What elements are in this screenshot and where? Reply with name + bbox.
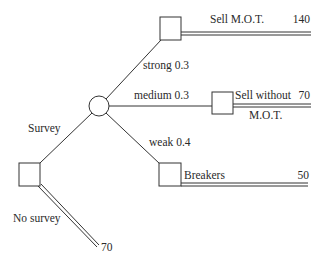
root-decision-node (19, 163, 40, 186)
decision-tree-diagram: Survey No survey 70 strong 0.3 medium 0.… (0, 0, 327, 269)
sell-without-mot-label-line1: Sell without (235, 89, 292, 101)
no-survey-payoff: 70 (101, 241, 113, 253)
weak-decision-node (159, 163, 181, 186)
medium-probability-label: medium 0.3 (134, 89, 189, 101)
breakers-outcome-line (181, 183, 308, 186)
sell-without-mot-payoff: 70 (299, 89, 311, 101)
medium-decision-node (212, 92, 233, 114)
sell-without-mot-label-line2: M.O.T. (249, 109, 282, 121)
survey-label: Survey (28, 122, 61, 135)
breakers-label: Breakers (184, 169, 225, 181)
sell-mot-label: Sell M.O.T. (210, 13, 264, 25)
strong-probability-label: strong 0.3 (143, 59, 189, 72)
no-survey-label: No survey (13, 212, 61, 225)
sell-mot-outcome-line (181, 32, 311, 35)
weak-probability-label: weak 0.4 (149, 136, 191, 148)
survey-chance-node (89, 96, 109, 116)
sell-without-mot-outcome-line (233, 104, 311, 107)
sell-mot-payoff: 140 (293, 13, 311, 25)
survey-branch-line (40, 113, 92, 163)
breakers-payoff: 50 (298, 169, 310, 181)
strong-decision-node (160, 17, 181, 40)
